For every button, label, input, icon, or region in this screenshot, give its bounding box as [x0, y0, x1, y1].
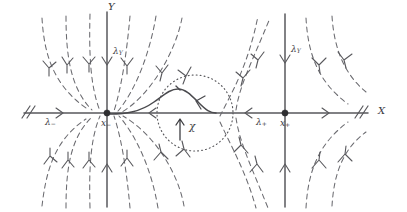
x-axis-label: X	[378, 106, 385, 116]
flow-trajectory	[42, 14, 100, 111]
eigenvalue-label-lambda-plus: λ+	[256, 118, 267, 127]
flow-trajectory	[220, 118, 366, 208]
fixed-point-x-minus	[104, 110, 110, 116]
eigenvalue-label-lambda-y-right: λY	[291, 45, 301, 54]
y-axis-label: Y	[108, 2, 115, 12]
flow-trajectory	[220, 16, 366, 116]
chi-direction-arrow	[176, 119, 184, 140]
axis-break-left	[22, 106, 35, 118]
phase-portrait-canvas	[0, 0, 407, 212]
flow-arrowhead	[43, 57, 95, 76]
fixed-point-label-x-plus: x+	[280, 119, 290, 128]
x-subscript: −	[106, 121, 111, 128]
x-subscript: +	[285, 121, 290, 128]
axes-group	[24, 12, 368, 207]
fixed-point-label-x-minus: x−	[101, 119, 111, 128]
flow-arrowhead	[44, 148, 95, 168]
lambda-subscript: Y	[119, 49, 123, 56]
phase-portrait-figure: Y X λ− λ+ λY λY x− x+ χ	[0, 0, 407, 212]
flow-arrowhead	[121, 58, 191, 84]
axis-break-right	[355, 106, 368, 118]
lambda-subscript: −	[51, 120, 56, 127]
chi-region-label: χ	[189, 121, 195, 132]
flow-trajectory	[114, 16, 182, 112]
flow-arrowhead	[234, 137, 352, 172]
fixed-point-x-plus	[282, 110, 288, 116]
lambda-subscript: Y	[297, 47, 301, 54]
eigenvalue-label-lambda-minus: λ−	[45, 118, 56, 127]
lambda-subscript: +	[262, 120, 267, 127]
eigenvalue-label-lambda-y-left: λY	[113, 47, 123, 56]
